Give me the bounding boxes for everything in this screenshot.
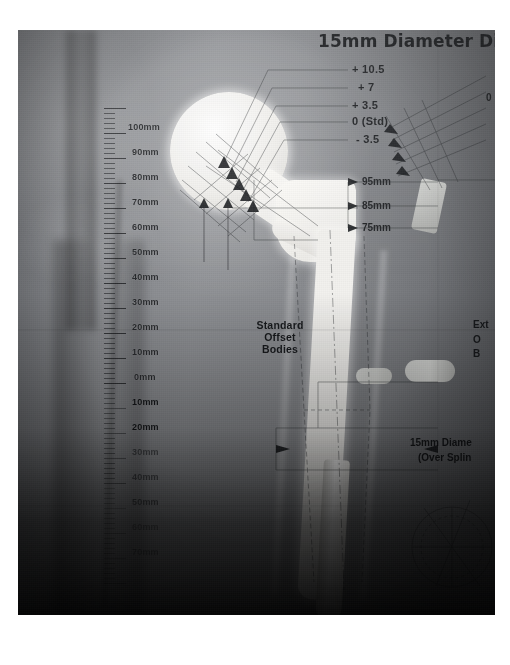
radiograph-page: 100mm 90mm 80mm 70mm 60mm 50mm 40mm 30mm…	[0, 0, 510, 665]
radiograph-film: 100mm 90mm 80mm 70mm 60mm 50mm 40mm 30mm…	[18, 30, 495, 615]
film-exposure-falloff	[18, 30, 495, 615]
